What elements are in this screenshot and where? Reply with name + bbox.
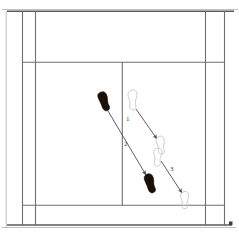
movement-arrow-1 — [136, 109, 157, 139]
step-label-2: 2 — [124, 141, 128, 148]
footprints-group — [97, 89, 191, 209]
court-lines-group — [2, 10, 238, 229]
bottom-right-corner-mark — [229, 222, 233, 226]
footprint-mid-right-outline-b — [153, 148, 163, 167]
footprint-end-left-filled — [143, 173, 158, 194]
court-footwork-diagram: Badminton court footwork diagram — [0, 0, 239, 237]
court-graphic — [0, 0, 239, 237]
footprint-start-left-filled — [97, 90, 113, 112]
step-label-3: 3 — [170, 166, 174, 173]
footprint-start-right-outline — [127, 89, 139, 110]
footprint-end-right-outline — [180, 191, 190, 209]
step-label-1: 1 — [126, 116, 130, 123]
